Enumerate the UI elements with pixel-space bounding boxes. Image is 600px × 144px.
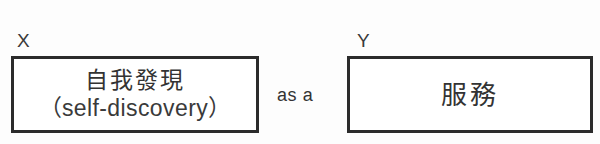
term-box-x-primary-text: 自我發現 (85, 67, 185, 94)
term-box-y: 服務 (347, 56, 593, 133)
connector-phrase-as-a: as a (277, 85, 313, 105)
diagram-canvas: X 自我發現 （self-discovery） as a Y 服務 (0, 0, 600, 144)
term-box-x: 自我發現 （self-discovery） (11, 56, 259, 133)
variable-label-y: Y (357, 31, 370, 50)
variable-label-x: X (17, 31, 30, 50)
term-box-y-primary-text: 服務 (441, 80, 499, 110)
term-box-x-secondary-text: （self-discovery） (39, 95, 232, 122)
